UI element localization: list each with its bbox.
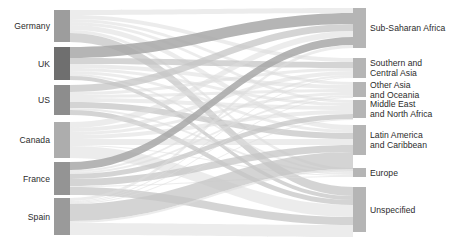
- sankey-link: [70, 223, 353, 237]
- source-label-germany: Germany: [14, 21, 50, 31]
- target-label-sca: Southern and Central Asia: [370, 58, 422, 78]
- sankey-node-canada[interactable]: [54, 122, 70, 158]
- sankey-node-unspec[interactable]: [353, 187, 366, 232]
- source-label-france: France: [23, 173, 50, 183]
- sankey-node-oao[interactable]: [353, 82, 366, 97]
- target-label-europe: Europe: [370, 167, 398, 177]
- sankey-node-uk[interactable]: [54, 47, 70, 80]
- sankey-node-germany[interactable]: [54, 10, 70, 42]
- source-label-us: US: [38, 95, 50, 105]
- sankey-links: [70, 8, 353, 237]
- sankey-node-us[interactable]: [54, 85, 70, 115]
- sankey-source-nodes: [54, 10, 70, 235]
- sankey-node-sca[interactable]: [353, 58, 366, 78]
- target-label-lac: Latin America and Caribbean: [370, 130, 427, 150]
- sankey-node-mena[interactable]: [353, 100, 366, 118]
- sankey-target-nodes: [353, 8, 366, 232]
- sankey-node-spain[interactable]: [54, 198, 70, 235]
- target-label-unspec: Unspecified: [370, 204, 415, 214]
- sankey-node-europe[interactable]: [353, 168, 366, 177]
- sankey-node-france[interactable]: [54, 162, 70, 195]
- sankey-node-lac[interactable]: [353, 125, 366, 155]
- source-label-spain: Spain: [28, 211, 50, 221]
- target-label-oao: Other Asia and Oceania: [370, 79, 419, 99]
- source-label-canada: Canada: [20, 135, 50, 145]
- sankey-node-ssa[interactable]: [353, 8, 366, 48]
- sankey-diagram: GermanyUKUSCanadaFranceSpainSub-Saharan …: [0, 0, 454, 247]
- target-label-ssa: Sub-Saharan Africa: [370, 23, 445, 33]
- source-label-uk: UK: [38, 58, 50, 68]
- target-label-mena: Middle East and North Africa: [370, 99, 432, 119]
- sankey-link: [70, 8, 353, 15]
